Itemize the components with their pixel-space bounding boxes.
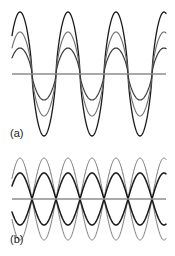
panel-b-label: (b)	[10, 234, 23, 245]
panel-a-label: (a)	[10, 128, 23, 139]
panel-b-plot	[0, 150, 175, 256]
panel-b	[0, 150, 175, 256]
figure-root: (a) (b)	[0, 0, 175, 256]
panel-a-plot	[0, 0, 175, 150]
panel-a	[0, 0, 175, 150]
